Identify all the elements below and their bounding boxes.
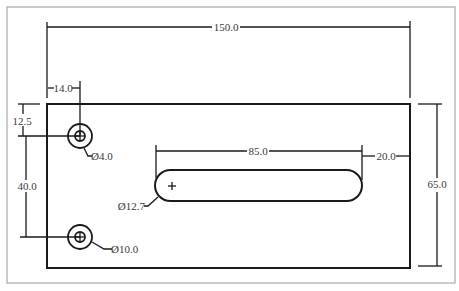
dimension-overall-height: 65.0 [418, 104, 447, 266]
dimension-label-40: 40.0 [17, 180, 37, 192]
callout-large-hole: Ø10.0 [111, 243, 139, 255]
dimension-overall-width: 150.0 [47, 21, 410, 98]
drawing-frame [7, 7, 455, 283]
dimension-label-65: 65.0 [427, 178, 447, 190]
dimension-hole-x-offset: 14.0 [48, 81, 80, 136]
small-hole: Ø4.0 [68, 124, 113, 162]
slot: Ø12.7 [118, 170, 362, 212]
dimension-label-150: 150.0 [214, 21, 239, 33]
plate-outline [47, 104, 410, 268]
callout-slot-width: Ø12.7 [118, 200, 146, 212]
dimension-hole-spacing: 40.0 [17, 136, 80, 237]
dimension-slot-right-offset: 20.0 [362, 150, 410, 162]
large-hole: Ø10.0 [68, 225, 139, 255]
dimension-label-12-5: 12.5 [12, 115, 32, 127]
dimension-label-14: 14.0 [53, 82, 73, 94]
dimension-label-85: 85.0 [248, 145, 268, 157]
technical-drawing: 150.0 14.0 12.5 40.0 Ø4.0 Ø10. [0, 0, 459, 291]
callout-small-hole: Ø4.0 [91, 150, 113, 162]
dimension-label-20: 20.0 [376, 150, 396, 162]
dimension-slot-length: 85.0 [156, 145, 362, 180]
